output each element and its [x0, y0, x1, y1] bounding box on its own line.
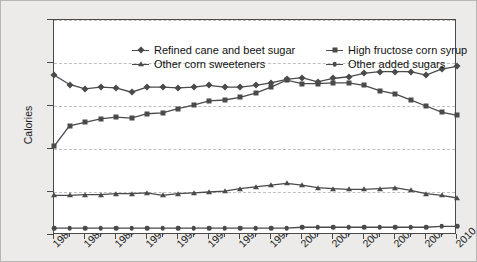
- legend-label: Refined cane and beet sugar: [154, 44, 295, 56]
- chart-legend: Refined cane and beet sugar High fructos…: [108, 40, 477, 73]
- data-point-marker: [361, 187, 367, 192]
- data-point-marker: [129, 191, 135, 196]
- data-point-marker: [315, 225, 320, 230]
- data-point-marker: [284, 78, 289, 83]
- legend-item-other-corn-sweeteners: Other corn sweeteners: [108, 58, 320, 70]
- data-point-marker: [67, 123, 72, 128]
- legend-item-other-added-sugars: Other added sugars: [320, 58, 445, 70]
- data-point-marker: [253, 226, 258, 231]
- data-point-marker: [238, 226, 243, 231]
- data-point-marker: [253, 184, 259, 189]
- data-point-marker: [176, 106, 181, 111]
- data-point-marker: [160, 110, 165, 115]
- data-point-marker: [362, 225, 367, 230]
- data-point-marker: [315, 185, 321, 190]
- data-point-marker: [129, 226, 134, 231]
- data-point-marker: [300, 81, 305, 86]
- data-point-marker: [114, 115, 119, 120]
- data-point-marker: [98, 192, 104, 197]
- data-point-marker: [237, 186, 243, 191]
- data-point-marker: [439, 224, 444, 229]
- legend-row: Other corn sweeteners Other added sugars: [108, 57, 477, 71]
- data-point-marker: [346, 225, 351, 230]
- data-point-marker: [346, 80, 351, 85]
- data-point-marker: [222, 97, 227, 102]
- data-point-marker: [67, 193, 73, 198]
- data-point-marker: [393, 225, 398, 230]
- data-point-marker: [284, 226, 289, 231]
- data-point-marker: [145, 111, 150, 116]
- data-point-marker: [98, 116, 103, 121]
- data-point-marker: [424, 225, 429, 230]
- data-point-marker: [392, 185, 398, 190]
- data-point-marker: [145, 226, 150, 231]
- data-point-marker: [346, 187, 352, 192]
- data-point-marker: [191, 190, 197, 195]
- data-point-marker: [299, 182, 305, 187]
- legend-label: High fructose corn syrup: [348, 44, 467, 56]
- data-point-marker: [222, 188, 228, 193]
- data-point-marker: [393, 91, 398, 96]
- data-point-marker: [83, 120, 88, 125]
- data-point-marker: [455, 113, 460, 118]
- data-point-marker: [377, 88, 382, 93]
- data-point-marker: [129, 116, 134, 121]
- data-point-marker: [52, 144, 57, 149]
- data-point-marker: [207, 226, 212, 231]
- plot-area: Refined cane and beet sugar High fructos…: [53, 19, 456, 234]
- legend-triangle-marker-icon: [132, 59, 149, 69]
- data-point-marker: [206, 189, 212, 194]
- data-point-marker: [82, 192, 88, 197]
- data-point-marker: [377, 186, 383, 191]
- data-point-marker: [362, 83, 367, 88]
- data-point-marker: [191, 103, 196, 108]
- data-point-marker: [113, 191, 119, 196]
- legend-diamond-marker-icon: [132, 45, 149, 55]
- data-point-marker: [51, 193, 57, 198]
- data-point-marker: [175, 191, 181, 196]
- legend-label: Other added sugars: [348, 58, 445, 70]
- data-point-marker: [439, 193, 445, 198]
- data-point-marker: [315, 81, 320, 86]
- chart-figure: 0.050.0100.0150.0200.0250.01984198619881…: [0, 0, 477, 262]
- data-point-marker: [269, 85, 274, 90]
- data-point-marker: [424, 104, 429, 109]
- data-point-marker: [439, 110, 444, 115]
- legend-item-high-fructose-corn-syrup: High fructose corn syrup: [320, 44, 467, 56]
- legend-square-marker-icon: [326, 45, 343, 55]
- data-point-marker: [377, 225, 382, 230]
- data-point-marker: [52, 226, 57, 231]
- legend-item-refined-cane-and-beet-sugar: Refined cane and beet sugar: [108, 44, 320, 56]
- data-point-marker: [408, 188, 414, 193]
- data-point-marker: [331, 225, 336, 230]
- y-axis-title: Calories: [22, 80, 34, 170]
- data-point-marker: [207, 98, 212, 103]
- data-point-marker: [238, 95, 243, 100]
- data-point-marker: [83, 226, 88, 231]
- data-point-marker: [423, 191, 429, 196]
- data-point-marker: [191, 226, 196, 231]
- data-point-marker: [222, 226, 227, 231]
- data-point-marker: [268, 182, 274, 187]
- data-point-marker: [253, 91, 258, 96]
- data-point-marker: [176, 226, 181, 231]
- data-point-marker: [67, 226, 72, 231]
- data-point-marker: [331, 80, 336, 85]
- legend-circle-marker-icon: [326, 59, 343, 69]
- data-point-marker: [98, 226, 103, 231]
- data-point-marker: [330, 186, 336, 191]
- data-point-marker: [144, 190, 150, 195]
- data-point-marker: [114, 226, 119, 231]
- data-point-marker: [160, 226, 165, 231]
- data-point-marker: [454, 195, 460, 200]
- data-point-marker: [300, 225, 305, 230]
- legend-row: Refined cane and beet sugar High fructos…: [108, 43, 477, 57]
- data-point-marker: [269, 226, 274, 231]
- data-point-marker: [284, 181, 290, 186]
- data-point-marker: [408, 97, 413, 102]
- legend-label: Other corn sweeteners: [154, 58, 265, 70]
- data-point-marker: [455, 224, 460, 229]
- data-point-marker: [160, 193, 166, 198]
- data-point-marker: [408, 225, 413, 230]
